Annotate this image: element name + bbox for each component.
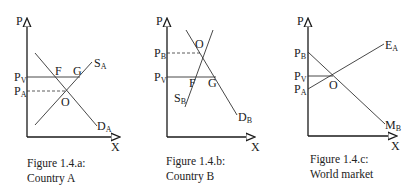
import-demand-curve: [308, 52, 385, 124]
caption-title: Figure 1.4.a:: [27, 156, 85, 171]
point-g: G: [208, 76, 217, 90]
point-o: O: [329, 78, 338, 92]
figure-b: P X PB PV O F G SB DB: [154, 14, 260, 154]
import-demand-label: MB: [385, 118, 401, 133]
price-label-pb: PB: [154, 46, 166, 61]
point-g: G: [73, 64, 82, 78]
caption-figure-a: Figure 1.4.a: Country A: [27, 156, 85, 186]
point-f: F: [55, 64, 62, 78]
y-axis-label: P: [156, 14, 163, 28]
supply-curve: [35, 62, 92, 125]
caption-title: Figure 1.4.b:: [166, 154, 225, 169]
point-o: O: [61, 95, 70, 109]
figure-a: P X PV PA F G O SA DA: [14, 14, 120, 154]
price-label-pv: PV: [14, 70, 27, 85]
demand-label: DA: [97, 119, 112, 134]
caption-title: Figure 1.4.c:: [310, 152, 373, 167]
caption-subtitle: Country A: [27, 171, 85, 186]
export-supply-curve: [308, 44, 384, 89]
point-o: O: [195, 37, 204, 51]
caption-subtitle: Country B: [166, 169, 225, 184]
export-supply-label: EA: [385, 38, 398, 53]
y-axis-label: P: [16, 14, 23, 28]
x-axis-label: X: [391, 139, 400, 153]
figure-c: P X PB PV PA O EA MB: [294, 14, 401, 153]
x-axis-label: X: [251, 140, 260, 154]
price-label-pb: PB: [294, 46, 306, 61]
caption-figure-b: Figure 1.4.b: Country B: [166, 154, 225, 184]
caption-figure-c: Figure 1.4.c: World market: [310, 152, 373, 182]
price-label-pv: PV: [154, 70, 167, 85]
supply-label: SB: [174, 91, 186, 106]
price-label-pa: PA: [14, 84, 27, 99]
y-axis-label: P: [297, 14, 304, 28]
demand-label: DB: [238, 110, 252, 125]
point-f: F: [189, 76, 196, 90]
caption-subtitle: World market: [310, 167, 373, 182]
demand-curve: [186, 30, 237, 115]
price-label-pa: PA: [294, 82, 307, 97]
x-axis-label: X: [111, 140, 120, 154]
supply-label: SA: [94, 56, 107, 71]
